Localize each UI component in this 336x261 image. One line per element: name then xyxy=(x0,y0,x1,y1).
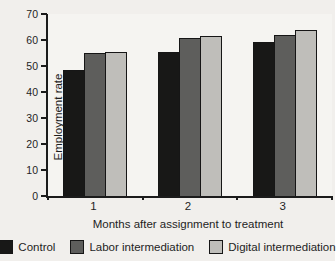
y-tick xyxy=(41,169,47,171)
y-tick-label: 50 xyxy=(26,61,38,72)
y-tick-label: 40 xyxy=(26,87,38,98)
legend-label-digital-intermediation: Digital intermediation xyxy=(228,241,335,253)
bar-digital-intermediation-month-3 xyxy=(295,30,317,196)
y-tick-label: 70 xyxy=(26,9,38,20)
bar-labor-intermediation-month-3 xyxy=(274,35,296,196)
bar-group-month-3 xyxy=(237,14,332,196)
y-tick xyxy=(41,65,47,67)
bar-labor-intermediation-month-1 xyxy=(84,53,106,196)
bar-digital-intermediation-month-2 xyxy=(200,36,222,196)
legend-item-control: Control xyxy=(0,240,55,254)
legend-item-labor-intermediation: Labor intermediation xyxy=(70,240,194,254)
legend-swatch-control xyxy=(0,240,13,254)
y-tick-label: 20 xyxy=(26,139,38,150)
legend-label-control: Control xyxy=(18,241,55,253)
bar-control-month-3 xyxy=(253,42,275,196)
y-tick-label: 10 xyxy=(26,165,38,176)
y-tick-label: 0 xyxy=(32,191,38,202)
bar-group-month-1 xyxy=(48,14,143,196)
x-tick xyxy=(331,196,333,200)
legend: ControlLabor intermediationDigital inter… xyxy=(0,240,335,254)
bar-control-month-1 xyxy=(63,70,85,196)
legend-label-labor-intermediation: Labor intermediation xyxy=(89,241,194,253)
bar-group-month-2 xyxy=(143,14,238,196)
y-tick-label: 60 xyxy=(26,35,38,46)
plot-area: Employment rate 010203040506070 xyxy=(46,14,332,198)
legend-item-digital-intermediation: Digital intermediation xyxy=(209,240,335,254)
x-category-label: 2 xyxy=(141,200,236,212)
x-axis-title: Months after assignment to treatment xyxy=(46,218,330,230)
y-tick-label: 30 xyxy=(26,113,38,124)
x-category-labels: 123 xyxy=(46,200,330,212)
y-tick xyxy=(41,13,47,15)
bar-control-month-2 xyxy=(158,52,180,196)
y-tick xyxy=(41,39,47,41)
x-category-label: 3 xyxy=(235,200,330,212)
y-tick xyxy=(41,91,47,93)
bar-digital-intermediation-month-1 xyxy=(105,52,127,196)
legend-swatch-labor-intermediation xyxy=(70,240,84,254)
y-tick xyxy=(41,117,47,119)
bar-groups xyxy=(48,14,332,196)
x-category-label: 1 xyxy=(46,200,141,212)
bar-labor-intermediation-month-2 xyxy=(179,38,201,196)
y-tick xyxy=(41,143,47,145)
legend-swatch-digital-intermediation xyxy=(209,240,223,254)
